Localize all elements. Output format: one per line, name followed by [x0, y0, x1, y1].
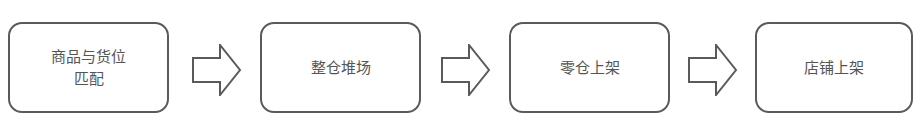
step-label: 店铺上架 — [804, 57, 864, 79]
step-goods-location-matching: 商品与货位 匹配 — [8, 22, 169, 113]
step-label: 整仓堆场 — [311, 57, 371, 79]
step-label: 商品与货位 — [51, 46, 126, 68]
step-label: 零仓上架 — [560, 57, 620, 79]
step-bulk-warehouse-shelving: 零仓上架 — [509, 22, 670, 113]
right-arrow-icon — [688, 44, 738, 96]
right-arrow-icon — [441, 44, 491, 96]
step-label: 匹配 — [51, 68, 126, 90]
step-whole-warehouse-yard: 整仓堆场 — [260, 22, 421, 113]
step-store-shelving: 店铺上架 — [755, 22, 913, 113]
right-arrow-icon — [192, 44, 242, 96]
